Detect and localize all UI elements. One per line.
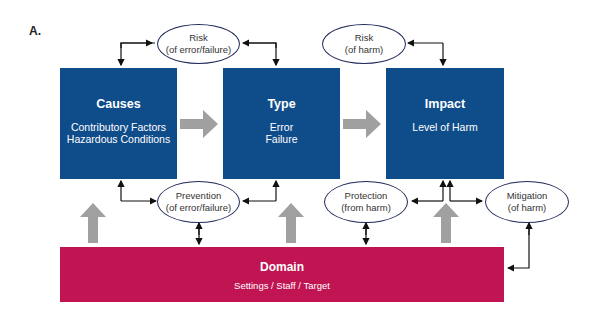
oval-line1: Mitigation <box>486 190 568 202</box>
risk-harm-oval: Risk (of harm) <box>322 24 406 64</box>
oval-line1: Risk <box>158 32 239 44</box>
mitigation-oval: Mitigation (of harm) <box>485 181 569 223</box>
domain-title: Domain <box>60 260 504 274</box>
type-line2: Failure <box>223 133 340 145</box>
oval-line2: (of harm) <box>323 44 405 56</box>
type-box: Type Error Failure <box>223 68 340 179</box>
protection-oval: Protection (from harm) <box>324 181 408 223</box>
causes-line2: Hazardous Conditions <box>60 133 177 145</box>
causes-title: Causes <box>60 97 177 111</box>
impact-line1: Level of Harm <box>386 121 504 133</box>
impact-title: Impact <box>386 97 504 111</box>
domain-subtitle: Settings / Staff / Target <box>60 280 504 291</box>
oval-line2: (of harm) <box>486 202 568 214</box>
impact-box: Impact Level of Harm <box>386 68 504 179</box>
oval-line1: Risk <box>323 32 405 44</box>
oval-line1: Protection <box>325 190 407 202</box>
causes-line1: Contributory Factors <box>60 121 177 133</box>
oval-line2: (of error/failure) <box>158 202 239 214</box>
prevention-oval: Prevention (of error/failure) <box>157 181 240 223</box>
causes-box: Causes Contributory Factors Hazardous Co… <box>60 68 177 179</box>
type-line1: Error <box>223 121 340 133</box>
oval-line2: (from harm) <box>325 202 407 214</box>
risk-error-oval: Risk (of error/failure) <box>157 24 240 64</box>
oval-line2: (of error/failure) <box>158 44 239 56</box>
oval-line1: Prevention <box>158 190 239 202</box>
domain-box: Domain Settings / Staff / Target <box>60 247 504 302</box>
type-title: Type <box>223 97 340 111</box>
